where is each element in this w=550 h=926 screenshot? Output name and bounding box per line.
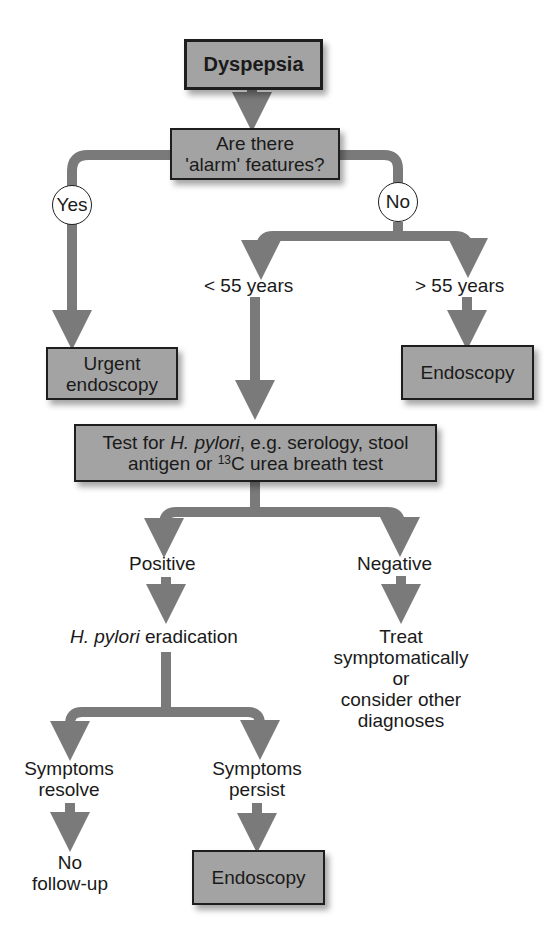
h-pylori-test-node: Test for H. pylori, e.g. serology, stool… <box>74 424 437 482</box>
alarm-features-question: Are there 'alarm' features? <box>170 128 340 180</box>
no-branch: No <box>378 182 418 222</box>
test-line1: Test for H. pylori, e.g. serology, stool <box>103 432 409 453</box>
endoscopy-top-label: Endoscopy <box>420 362 514 383</box>
negative-label: Negative <box>357 553 432 574</box>
treat-symptomatically-label: Treat symptomatically or consider other … <box>326 626 476 731</box>
dyspepsia-node: Dyspepsia <box>184 39 323 90</box>
test-line2: antigen or 13C urea breath test <box>128 453 383 474</box>
urgent-line1: Urgent <box>83 353 140 374</box>
dyspepsia-label: Dyspepsia <box>203 54 303 75</box>
yes-branch: Yes <box>52 185 92 225</box>
eradication-label: H. pylori eradication <box>70 626 238 647</box>
yes-label: Yes <box>57 194 88 216</box>
endoscopy-node-top: Endoscopy <box>401 345 534 400</box>
under-55-label: < 55 years <box>204 275 293 296</box>
question-line2: 'alarm' features? <box>185 154 324 175</box>
no-followup-label: No follow-up <box>20 852 120 894</box>
symptoms-resolve-label: Symptoms resolve <box>14 758 124 800</box>
no-label: No <box>386 191 410 213</box>
endoscopy-node-bottom: Endoscopy <box>192 850 325 905</box>
symptoms-persist-label: Symptoms persist <box>202 758 312 800</box>
positive-label: Positive <box>129 553 196 574</box>
endoscopy-bottom-label: Endoscopy <box>211 867 305 888</box>
urgent-endoscopy-node: Urgent endoscopy <box>46 347 178 400</box>
urgent-line2: endoscopy <box>66 374 158 395</box>
over-55-label: > 55 years <box>415 275 504 296</box>
question-line1: Are there <box>216 133 294 154</box>
